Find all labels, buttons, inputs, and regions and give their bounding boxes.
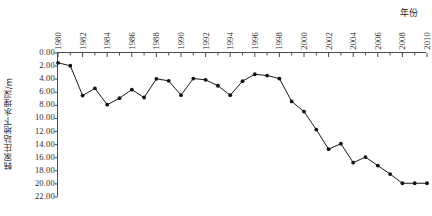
y-axis-tick-label: 8.00 — [39, 99, 55, 109]
series-point — [118, 96, 122, 100]
series-point — [68, 64, 72, 68]
y-axis-tick-label: 10.00 — [35, 112, 55, 122]
series-point — [401, 181, 405, 185]
series-point — [339, 142, 343, 146]
series-point — [228, 93, 232, 97]
series-point — [155, 77, 159, 81]
series-point — [241, 79, 245, 83]
series-point — [314, 128, 318, 132]
y-axis-tick-labels: 0.002.004.006.008.0010.0012.0014.0016.00… — [0, 0, 55, 216]
x-axis-tick-label: 1986 — [127, 32, 137, 50]
x-axis-tick-labels: 1980198219841986198819901992199419961998… — [57, 0, 432, 52]
x-axis-tick-label: 1994 — [225, 32, 235, 50]
series-point — [253, 72, 257, 76]
series-point — [130, 88, 134, 92]
series-point — [413, 181, 417, 185]
series-point — [364, 155, 368, 159]
series-point — [167, 79, 171, 83]
x-axis-tick-label: 1998 — [274, 32, 284, 50]
x-axis-tick-label: 1988 — [151, 32, 161, 50]
y-axis-tick-label: 12.00 — [35, 126, 55, 136]
y-axis-tick-label: 16.00 — [35, 152, 55, 162]
series-point — [191, 77, 195, 81]
x-axis-tick-label: 2010 — [422, 32, 432, 50]
series-point — [327, 147, 331, 151]
series-point — [425, 181, 429, 185]
y-axis-tick-label: 22.00 — [35, 191, 55, 201]
series-point — [56, 61, 60, 65]
x-axis-tick-label: 1984 — [102, 32, 112, 50]
groundwater-depth-chart: 年份 韩家庄站地下水埋深/m 0.002.004.006.008.0010.00… — [0, 0, 432, 216]
series-point — [265, 74, 269, 78]
x-axis-ticks — [55, 53, 428, 197]
series-point — [142, 96, 146, 100]
x-axis-tick-label: 1992 — [201, 32, 211, 50]
series-point — [351, 161, 355, 165]
series-point — [376, 164, 380, 168]
x-axis-tick-label: 1980 — [53, 32, 63, 50]
y-axis-tick-label: 6.00 — [39, 86, 55, 96]
y-axis-tick-label: 20.00 — [35, 178, 55, 188]
y-axis-tick-label: 18.00 — [35, 165, 55, 175]
series-point — [179, 93, 183, 97]
x-axis-tick-label: 2004 — [348, 32, 358, 50]
series-point — [105, 103, 109, 107]
x-axis-tick-label: 1996 — [250, 32, 260, 50]
y-axis-tick-label: 2.00 — [39, 60, 55, 70]
series-point — [278, 77, 282, 81]
x-axis-tick-label: 1982 — [78, 32, 88, 50]
plot-area — [57, 52, 426, 196]
series-plot — [58, 53, 427, 197]
series-point — [388, 172, 392, 176]
series-point — [290, 100, 294, 104]
series-point — [93, 86, 97, 90]
y-axis-tick-label: 4.00 — [39, 73, 55, 83]
series-point — [81, 94, 85, 98]
x-axis-tick-label: 2008 — [397, 32, 407, 50]
series-point — [204, 78, 208, 82]
series-point — [216, 84, 220, 88]
x-axis-tick-label: 2000 — [299, 32, 309, 50]
x-axis-tick-label: 2002 — [324, 32, 334, 50]
x-axis-tick-label: 1990 — [176, 32, 186, 50]
x-axis-tick-label: 2006 — [373, 32, 383, 50]
series-point — [302, 110, 306, 114]
y-axis-tick-label: 14.00 — [35, 139, 55, 149]
series-points — [56, 61, 429, 185]
